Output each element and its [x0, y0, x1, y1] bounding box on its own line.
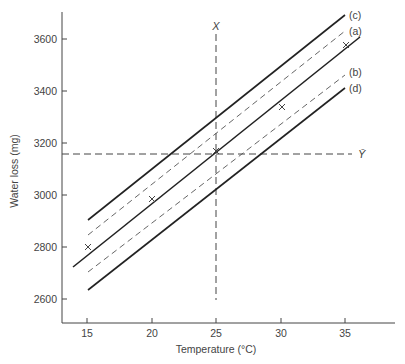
y-tick-label: 3000 — [34, 189, 58, 201]
y-tick-label: 2800 — [34, 241, 58, 253]
point-marker — [343, 42, 349, 48]
x-tick-label: 35 — [339, 327, 351, 339]
line-d-label: (d) — [349, 82, 362, 94]
x-ticks: 15 20 25 30 35 — [81, 318, 351, 339]
x-tick-label: 20 — [146, 327, 158, 339]
y-mean-label: Ȳ — [358, 148, 366, 160]
y-tick-label: 3600 — [34, 33, 58, 45]
x-tick-label: 25 — [210, 327, 222, 339]
line-c-label: (c) — [349, 9, 361, 21]
y-tick-label: 3200 — [34, 137, 58, 149]
line-a-label: (a) — [349, 25, 362, 37]
y-tick-label: 2600 — [34, 293, 58, 305]
data-points — [85, 42, 349, 250]
x-mean-label: X — [211, 20, 220, 32]
point-marker — [149, 196, 155, 202]
y-tick-label: 3400 — [34, 85, 58, 97]
x-tick-label: 15 — [81, 327, 93, 339]
point-marker — [279, 104, 285, 110]
x-axis-label: Temperature (°C) — [176, 343, 257, 355]
y-axis-label: Water loss (mg) — [8, 134, 20, 208]
line-b-label: (b) — [349, 66, 362, 78]
x-tick-label: 30 — [275, 327, 287, 339]
chart: 3600 3400 3200 3000 2800 2600 15 20 25 3… — [0, 0, 405, 364]
point-marker — [85, 244, 91, 250]
